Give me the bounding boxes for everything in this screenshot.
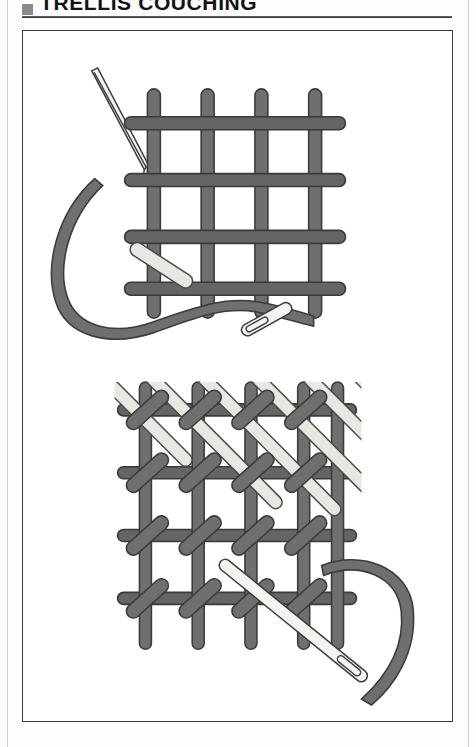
- bottom-diagram-completed-trellis: [23, 347, 452, 705]
- figure-box: .tdark { fill:#6f6f6f; stroke:#3c3c3c; s…: [22, 30, 453, 722]
- top-diagram-laid-grid: [52, 68, 346, 339]
- trellis-couching-illustration: .tdark { fill:#6f6f6f; stroke:#3c3c3c; s…: [23, 31, 452, 721]
- square-bullet-icon: [22, 4, 33, 15]
- title-divider: [22, 16, 452, 18]
- page-canvas: TRELLIS COUCHING .tdark { fill:#6f6f6f; …: [0, 0, 476, 747]
- page-title: TRELLIS COUCHING: [40, 0, 257, 17]
- page-rule-right: [468, 0, 469, 747]
- page-rule-left: [7, 0, 8, 747]
- bottom-threaded-needle: [217, 557, 370, 684]
- page-header: TRELLIS COUCHING: [22, 0, 454, 17]
